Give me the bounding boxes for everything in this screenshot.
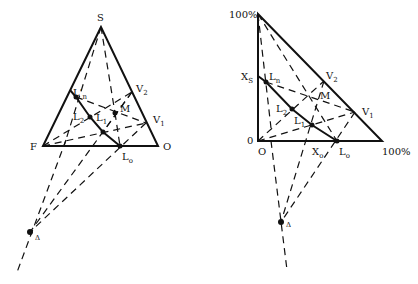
left-label-Lo: Lo xyxy=(122,151,133,165)
right-label-top-100: 100% xyxy=(229,9,258,20)
right-rectangular-diagram: 100% 0 O 100% XS Xo Ln L2 L1 Lo M V2 V1 … xyxy=(229,9,411,270)
right-point-L1 xyxy=(310,123,315,128)
left-dash-S-down xyxy=(64,27,101,146)
left-point-Lo xyxy=(118,144,123,149)
left-label-M: M xyxy=(120,103,130,114)
left-label-V1: V1 xyxy=(152,114,165,128)
right-point-Ln xyxy=(264,80,269,85)
right-label-Ln: Ln xyxy=(269,71,281,85)
right-label-M: M xyxy=(320,90,330,101)
left-label-L1: L1 xyxy=(96,112,107,126)
right-point-L2 xyxy=(290,107,295,112)
right-point-delta xyxy=(278,219,284,225)
left-point-L2 xyxy=(88,115,93,120)
left-point-M xyxy=(113,111,118,116)
left-label-L2: L2 xyxy=(73,111,84,125)
left-point-delta xyxy=(27,229,33,235)
right-dash-O-V1 xyxy=(258,112,355,141)
right-label-right-100: 100% xyxy=(382,146,411,157)
left-label-F: F xyxy=(30,141,37,152)
right-label-origin-x: O xyxy=(258,146,266,157)
left-dash-V1-delta xyxy=(30,123,146,232)
left-label-delta: Δ xyxy=(35,234,40,242)
right-label-delta: Δ xyxy=(286,221,291,229)
diagram-canvas: S F O L'n L2 L1 Lo M V2 V1 Δ 100% 0 O 10… xyxy=(0,0,418,284)
right-dash-O-delta-ext xyxy=(271,141,287,270)
left-label-O: O xyxy=(163,141,171,152)
right-label-L2: L2 xyxy=(276,103,287,117)
right-label-V2: V2 xyxy=(325,70,338,84)
right-point-Lo xyxy=(335,139,340,144)
right-label-Lo: Lo xyxy=(339,146,350,160)
left-label-S: S xyxy=(97,12,104,23)
right-label-Xs: XS xyxy=(241,71,253,85)
left-dash-F-delta-ext xyxy=(16,140,66,275)
right-label-origin-y: 0 xyxy=(247,135,253,146)
right-label-Xo: Xo xyxy=(312,146,323,160)
right-solution-line xyxy=(258,76,337,141)
left-ternary-diagram: S F O L'n L2 L1 Lo M V2 V1 Δ xyxy=(16,12,171,275)
left-label-V2: V2 xyxy=(135,83,148,97)
right-label-V1: V1 xyxy=(361,106,374,120)
left-point-L1 xyxy=(101,130,106,135)
